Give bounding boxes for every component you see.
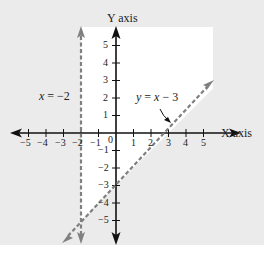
y-tick-label: 5: [103, 39, 108, 50]
eq-equals: =: [141, 90, 154, 104]
x-tick-label: 1: [131, 137, 136, 148]
y-tick-label: −4: [98, 197, 109, 208]
x-tick-label: 3: [166, 137, 171, 148]
x-tick-label: 2: [148, 137, 153, 148]
y-tick-label: 2: [103, 92, 108, 103]
y-tick-label: 1: [103, 109, 108, 120]
x-axis-label: X axis: [221, 126, 252, 141]
x-tick-label: −4: [37, 137, 48, 148]
eq-rest: = −2: [44, 89, 70, 103]
x-tick-label-zero: 0: [108, 134, 113, 145]
y-tick-label: 4: [103, 57, 108, 68]
x-tick-label: 4: [183, 137, 188, 148]
x-tick-label: −2: [72, 137, 83, 148]
x-tick-label: −5: [20, 137, 31, 148]
y-tick-label: −2: [98, 162, 109, 173]
x-tick-label: 5: [201, 137, 206, 148]
y-tick-label: 3: [103, 74, 108, 85]
equation-x-neg2: x = −2: [39, 89, 70, 104]
y-tick-label: −3: [98, 179, 109, 190]
x-tick-label: −3: [55, 137, 66, 148]
y-tick-label: −1: [98, 144, 109, 155]
y-axis-label: Y axis: [107, 11, 138, 26]
y-tick-label: −5: [98, 214, 109, 225]
eq-rest: − 3: [159, 90, 178, 104]
equation-y-x-minus-3: y = x − 3: [136, 90, 178, 105]
